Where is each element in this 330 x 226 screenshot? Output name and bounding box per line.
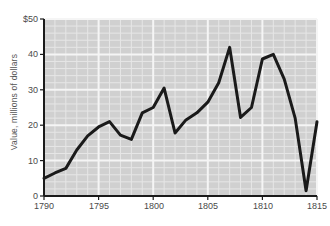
chart-figure: Value, millions of dollars $50 40 30 20 … — [0, 0, 330, 226]
plot-area — [0, 0, 330, 226]
plot-background — [44, 19, 317, 196]
